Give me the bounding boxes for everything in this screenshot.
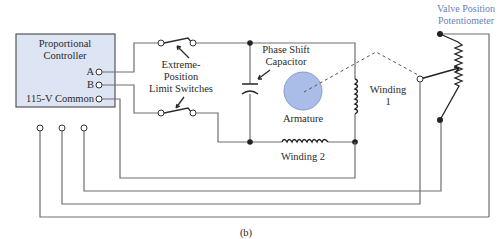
junction-top — [247, 40, 253, 46]
figure-caption: (b) — [240, 227, 253, 239]
wire-winding1-down — [328, 114, 355, 142]
bottom-terminal-1 — [37, 125, 43, 131]
terminal-b-label: B — [87, 79, 94, 90]
wire-pot-wiper — [62, 82, 420, 204]
controller-title-2: Controller — [43, 50, 87, 61]
wire-pot-low — [84, 123, 441, 191]
arrow-to-capacitor — [258, 70, 270, 79]
potentiometer-label-1: Valve Position — [437, 3, 495, 14]
terminal-b — [96, 82, 102, 88]
wire-bottom-bus — [196, 113, 282, 142]
winding-1 — [355, 79, 358, 114]
winding-2 — [282, 140, 328, 143]
junction-bottom — [247, 139, 253, 145]
terminal-common-label: 115-V Common — [26, 93, 95, 104]
winding2-label: Winding 2 — [281, 151, 325, 162]
wire-pot-top — [443, 34, 489, 217]
phase-shift-capacitor — [242, 84, 258, 94]
proportional-controller: Proportional Controller A B 115-V Common — [16, 34, 115, 131]
motor-control-circuit-diagram: Proportional Controller A B 115-V Common… — [0, 0, 504, 239]
terminal-a — [96, 69, 102, 75]
limit-switches-label-2: Position — [164, 71, 199, 82]
potentiometer-label-2: Potentiometer — [438, 15, 495, 26]
arrow-to-bottom-switch — [176, 97, 184, 108]
capacitor-label-2: Capacitor — [266, 56, 307, 67]
terminal-common — [96, 96, 102, 102]
armature-label: Armature — [283, 113, 324, 124]
terminal-a-label: A — [86, 66, 94, 77]
bottom-terminal-3 — [81, 125, 87, 131]
limit-switch-top — [158, 38, 196, 46]
wiper-arrow — [420, 67, 459, 79]
limit-switches-label-3: Limit Switches — [149, 83, 213, 94]
armature — [284, 72, 322, 110]
limit-switches-label-1: Extreme- — [161, 59, 201, 70]
valve-position-potentiometer — [417, 31, 462, 123]
limit-switch-bottom — [158, 108, 196, 116]
wire-common — [102, 99, 355, 178]
winding1-label-2: 1 — [385, 96, 390, 107]
arrow-to-top-switch — [177, 46, 189, 58]
controller-title-1: Proportional — [39, 38, 92, 49]
capacitor-label-1: Phase Shift — [262, 44, 310, 55]
winding1-label-1: Winding — [370, 84, 407, 95]
bottom-terminal-2 — [59, 125, 65, 131]
